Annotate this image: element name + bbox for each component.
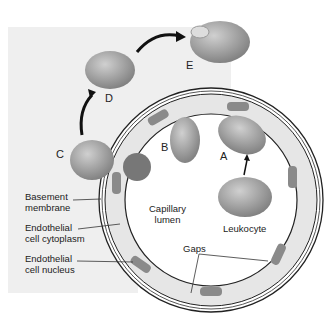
label-gaps: Gaps: [183, 243, 206, 254]
diagram-graphics: [0, 0, 332, 324]
label-basement-membrane: Basement membrane: [25, 191, 70, 213]
label-capillary-lumen: Capillary lumen: [149, 203, 186, 225]
leukocyte: [218, 177, 272, 217]
label-endothelial-cytoplasm: Endothelial cell cytoplasm: [25, 222, 85, 244]
leukocyte-B: [170, 117, 200, 163]
diapedesis-diagram: C D E B A Basement membrane Endothelial …: [0, 0, 332, 324]
label-endothelial-nucleus: Endothelial cell nucleus: [25, 253, 75, 275]
label-leukocyte: Leukocyte: [223, 223, 266, 234]
leukocyte-C: [70, 140, 114, 180]
stage-label-D: D: [105, 92, 113, 104]
leukocyte-D: [85, 51, 135, 89]
stage-label-A: A: [220, 150, 227, 162]
stage-label-B: B: [161, 141, 168, 153]
stage-label-C: C: [56, 148, 64, 160]
stage-label-E: E: [186, 59, 193, 71]
